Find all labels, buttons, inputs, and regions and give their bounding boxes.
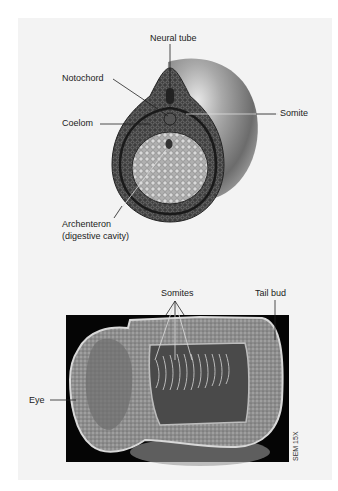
label-eye: Eye — [29, 395, 45, 406]
label-archenteron-subtitle: (digestive cavity) — [62, 231, 129, 242]
label-coelom: Coelom — [62, 118, 93, 129]
sem-micrograph — [66, 315, 289, 466]
archenteron-cavity — [166, 139, 173, 149]
label-magnification: SEM 15X — [292, 431, 299, 461]
somites-leader-left-top — [166, 301, 175, 315]
embryo-cross-section — [112, 58, 258, 222]
archenteron-leader-tip — [114, 206, 122, 218]
label-somites: Somites — [161, 288, 194, 299]
label-tail-bud: Tail bud — [255, 288, 286, 299]
figure-graphics — [0, 0, 338, 491]
label-somite: Somite — [280, 108, 308, 119]
label-archenteron: Archenteron — [62, 219, 111, 230]
label-notochord: Notochord — [62, 73, 104, 84]
somites-leader-right-top — [175, 301, 184, 315]
label-neural-tube: Neural tube — [150, 33, 197, 44]
